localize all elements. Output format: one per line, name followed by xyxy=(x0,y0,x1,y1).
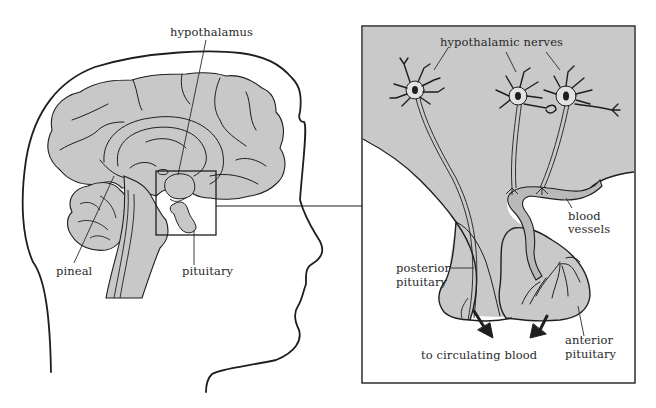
label-hypothalamic-nerves: hypothalamic nerves xyxy=(440,35,563,49)
diagram-artwork xyxy=(0,0,656,408)
label-anterior-pituitary-line1: anterior xyxy=(565,333,613,347)
label-posterior-pituitary-line2: pituitary xyxy=(396,275,447,289)
label-pituitary: pituitary xyxy=(182,264,233,278)
label-blood-vessels-line2: vessels xyxy=(568,222,610,236)
pituitary-diagram: hypothalamus pineal pituitary hypothalam… xyxy=(0,0,656,408)
label-blood-vessels-line1: blood xyxy=(568,209,601,223)
label-pineal: pineal xyxy=(56,264,92,278)
hypothalamus-region xyxy=(165,174,195,199)
pineal-gland xyxy=(158,169,168,174)
label-posterior-pituitary-line1: posterior xyxy=(396,261,450,275)
pituitary-small xyxy=(170,202,196,233)
label-hypothalamus: hypothalamus xyxy=(170,25,253,39)
label-to-circulating-blood: to circulating blood xyxy=(421,348,537,362)
enlarged-panel xyxy=(362,26,635,383)
label-anterior-pituitary-line2: pituitary xyxy=(565,347,616,361)
